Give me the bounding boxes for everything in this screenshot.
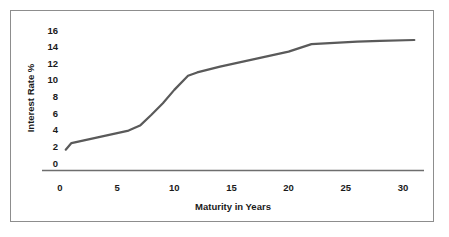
y-axis-title: Interest Rate % (25, 63, 36, 132)
x-axis-tick-labels: 0 5 10 15 20 25 30 (57, 182, 408, 193)
x-tick-label: 10 (169, 182, 180, 193)
y-tick-label: 2 (53, 141, 58, 152)
x-axis-title: Maturity in Years (195, 201, 271, 212)
chart-figure: 16 14 12 10 8 6 4 2 0 Interest Rate % 0 … (0, 0, 449, 237)
y-tick-label: 0 (53, 158, 58, 169)
x-tick-label: 25 (341, 182, 352, 193)
y-tick-label: 12 (47, 58, 58, 69)
y-tick-label: 14 (47, 41, 58, 52)
y-tick-label: 10 (47, 74, 58, 85)
y-tick-label: 16 (47, 25, 58, 36)
x-tick-label: 30 (398, 182, 409, 193)
y-axis-tick-labels: 16 14 12 10 8 6 4 2 0 (47, 25, 58, 169)
x-tick-label: 5 (115, 182, 121, 193)
y-tick-label: 4 (53, 124, 59, 135)
x-tick-label: 20 (283, 182, 294, 193)
x-tick-label: 15 (226, 182, 237, 193)
y-tick-label: 8 (53, 91, 58, 102)
x-tick-label: 0 (57, 182, 62, 193)
line-chart-plot: 16 14 12 10 8 6 4 2 0 Interest Rate % 0 … (0, 0, 449, 237)
y-tick-label: 6 (53, 108, 58, 119)
data-series-line (66, 40, 415, 150)
